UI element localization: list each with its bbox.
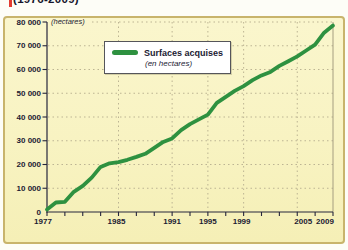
- x-tick-label: 1977: [28, 217, 58, 226]
- x-tick-label: 1985: [102, 217, 132, 226]
- line-chart-canvas: [0, 0, 348, 250]
- x-tick-label: 1999: [227, 217, 257, 226]
- y-tick-label: 20 000: [0, 160, 41, 169]
- y-tick-label: 80 000: [0, 18, 41, 27]
- legend: Surfaces acquises (en hectares): [104, 41, 231, 74]
- legend-sublabel: (en hectares): [145, 59, 224, 68]
- y-axis-unit-label: (hectares): [51, 17, 85, 26]
- legend-row: Surfaces acquises: [112, 47, 224, 58]
- x-tick-label: 2009: [310, 217, 340, 226]
- y-tick-label: 40 000: [0, 113, 41, 122]
- x-tick-label: 1991: [157, 217, 187, 226]
- y-tick-label: 10 000: [0, 184, 41, 193]
- legend-line-sample: [112, 50, 138, 55]
- legend-label: Surfaces acquises: [144, 48, 223, 58]
- y-tick-label: 70 000: [0, 41, 41, 50]
- y-tick-label: 60 000: [0, 65, 41, 74]
- y-tick-label: 30 000: [0, 136, 41, 145]
- page: (1976-2009) (hectares) 80 00070 00060 00…: [0, 0, 348, 250]
- y-tick-label: 50 000: [0, 89, 41, 98]
- x-tick-label: 1995: [193, 217, 223, 226]
- y-tick-label: 0: [0, 208, 41, 217]
